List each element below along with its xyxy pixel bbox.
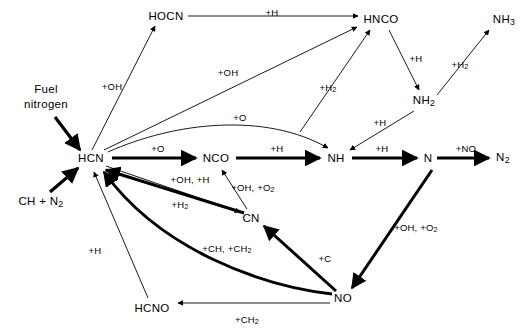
edge-label-cn-nco: +OH, +O2 [231, 182, 275, 195]
edge-label-hcn-nco: +O [151, 143, 164, 154]
edge-label-nh-n: +H [376, 143, 389, 154]
node-hocn: HOCN [148, 9, 183, 23]
edge-label-n-n2: +NO [456, 143, 476, 154]
edge-label-nh2-nh: +H [374, 117, 387, 128]
edge-label-hnco-nh2: +H [410, 53, 423, 64]
diagram-edges-canvas [0, 0, 527, 334]
node-hcn: HCN [78, 151, 104, 165]
edge-label-hocn-hnco: +H [266, 7, 279, 18]
edge-label-no-hcn: +CH, +CH2 [202, 243, 252, 256]
reaction-pathway-diagram: Fuelnitrogen CH + N2 HCN HOCN HNCO NH3 N… [0, 0, 527, 334]
node-fuel-nitrogen: Fuelnitrogen [24, 82, 68, 112]
edge-hcn-to-nh-curved [108, 125, 328, 152]
edge-label-nco-nh: +H [271, 143, 284, 154]
node-ch-n2: CH + N2 [19, 194, 64, 210]
edge-label-no-cn: +C [319, 253, 332, 264]
edge-label-nco-hnco: +H2 [319, 82, 336, 95]
edge-label-n-no: +OH, +O2 [394, 222, 438, 235]
edge-ch-n2-to-hcn [50, 168, 78, 192]
node-n: N [424, 151, 433, 165]
edge-label-nh2-nh3: +H2 [451, 59, 468, 72]
edge-label-hcn-hnco: +OH [218, 67, 238, 78]
node-cn: CN [242, 211, 259, 225]
edge-label-hcn-hocn: +OH [102, 81, 122, 92]
edge-label-hcno-hcn: +H [89, 245, 102, 256]
edge-fuel-nitrogen-to-hcn [55, 117, 80, 150]
node-hcno: HCNO [134, 301, 169, 315]
edge-label-no-hcno: +CH2 [235, 314, 259, 327]
node-nh3: NH3 [493, 12, 515, 28]
node-nh: NH [327, 151, 344, 165]
node-nh2: NH2 [413, 93, 435, 109]
node-nco: NCO [203, 151, 229, 165]
edge-label-hcn-nh: +O [233, 112, 246, 123]
edge-label-hcn-cn: +OH, +H [171, 174, 210, 185]
node-n2: N2 [496, 150, 510, 166]
node-hnco: HNCO [363, 12, 398, 26]
edge-label-cn-hcn: +H2 [171, 199, 188, 212]
node-no: NO [334, 291, 352, 305]
